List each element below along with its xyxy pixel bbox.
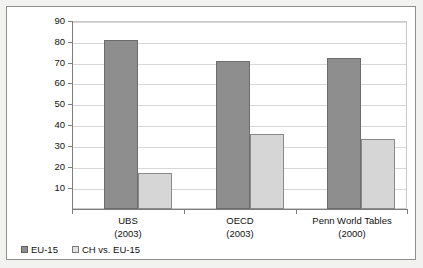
- category-label-ubs-name: UBS: [72, 215, 184, 228]
- y-axis-label-30: 30: [25, 141, 65, 151]
- y-axis-label-60: 60: [25, 78, 65, 88]
- legend-label-ch-vs-eu15: CH vs. EU-15: [82, 244, 140, 255]
- x-tick-end: [407, 210, 408, 214]
- y-tick-10: [68, 188, 72, 189]
- category-label-oecd-name: OECD: [184, 215, 296, 228]
- y-axis-label-80-wrap: 80: [7, 37, 65, 47]
- category-label-penn: Penn World Tables (2000): [296, 215, 408, 240]
- y-axis-label-20: 20: [25, 162, 65, 172]
- y-axis-label-70-wrap: 70: [7, 58, 65, 68]
- x-tick-1: [184, 210, 185, 214]
- y-axis-label-50-wrap: 50: [7, 99, 65, 109]
- chart-outer-frame: 90 80 70 60 50 40 30 20 10 UBS (2003) OE…: [6, 6, 416, 260]
- y-axis-label-20-wrap: 20: [7, 162, 65, 172]
- y-tick-60: [68, 83, 72, 84]
- legend-swatch-ch-vs-eu15-icon: [72, 246, 79, 253]
- legend-swatch-eu15-icon: [21, 246, 28, 253]
- category-label-oecd-year: (2003): [184, 228, 296, 241]
- y-tick-70: [68, 63, 72, 64]
- category-label-penn-name: Penn World Tables: [296, 215, 408, 228]
- category-label-oecd: OECD (2003): [184, 215, 296, 240]
- y-tick-20: [68, 167, 72, 168]
- y-axis-label-70: 70: [25, 58, 65, 68]
- y-tick-50: [68, 104, 72, 105]
- y-axis-label-50: 50: [25, 99, 65, 109]
- chart-legend: EU-15 CH vs. EU-15: [21, 244, 140, 255]
- y-axis-label-10: 10: [25, 183, 65, 193]
- x-tick-2: [296, 210, 297, 214]
- legend-item-ch-vs-eu15: CH vs. EU-15: [72, 244, 140, 255]
- bar-eu15-penn: [327, 58, 361, 209]
- bar-ch-vs-eu15-oecd: [250, 134, 284, 209]
- bar-eu15-ubs: [104, 40, 138, 209]
- y-axis-line: [72, 21, 73, 210]
- chart-figure: 90 80 70 60 50 40 30 20 10 UBS (2003) OE…: [0, 0, 423, 268]
- y-axis-label-30-wrap: 30: [7, 141, 65, 151]
- y-axis-label-60-wrap: 60: [7, 78, 65, 88]
- x-axis-line: [72, 209, 408, 210]
- category-label-penn-year: (2000): [296, 228, 408, 241]
- y-axis-label-10-wrap: 10: [7, 183, 65, 193]
- category-label-ubs-year: (2003): [72, 228, 184, 241]
- y-tick-30: [68, 146, 72, 147]
- y-axis-label-40: 40: [25, 120, 65, 130]
- y-tick-90: [68, 21, 72, 22]
- bar-group-container: [72, 21, 408, 209]
- legend-label-eu15: EU-15: [31, 244, 58, 255]
- y-axis-label-90-wrap: 90: [7, 16, 65, 26]
- y-tick-80: [68, 42, 72, 43]
- bar-eu15-oecd: [216, 61, 250, 209]
- category-label-ubs: UBS (2003): [72, 215, 184, 240]
- y-axis-label-40-wrap: 40: [7, 120, 65, 130]
- x-tick-start: [72, 210, 73, 214]
- y-axis-label-90: 90: [25, 16, 65, 26]
- bar-ch-vs-eu15-penn: [361, 139, 395, 209]
- bar-ch-vs-eu15-ubs: [138, 173, 172, 209]
- y-tick-40: [68, 125, 72, 126]
- y-axis-label-80: 80: [25, 37, 65, 47]
- legend-item-eu15: EU-15: [21, 244, 58, 255]
